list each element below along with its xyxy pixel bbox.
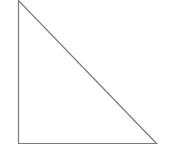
diagram-canvas [0,0,169,150]
triangle-svg [0,0,169,150]
right-triangle [19,1,157,144]
